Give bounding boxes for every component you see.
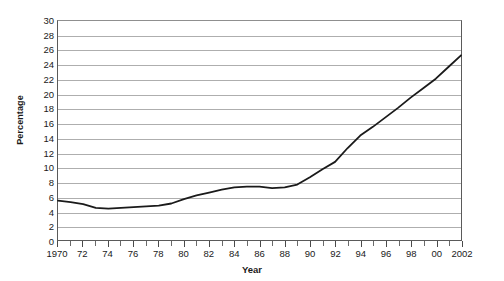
y-tick-label: 18	[43, 103, 54, 114]
x-tick-mark	[424, 241, 425, 246]
x-axis-title: Year	[0, 264, 504, 275]
y-tick-label: 22	[43, 73, 54, 84]
x-tick-mark	[297, 241, 298, 246]
x-tick-mark	[437, 241, 438, 247]
x-tick-mark	[82, 241, 83, 247]
x-tick-mark	[310, 241, 311, 247]
y-tick-label: 20	[43, 88, 54, 99]
x-tick-label: 00	[431, 248, 442, 259]
line-chart: Percentage 302826242220181614121086420 1…	[0, 0, 504, 281]
x-tick-mark	[209, 241, 210, 247]
series-polyline	[58, 55, 461, 208]
x-tick-mark	[108, 241, 109, 247]
x-tick-mark	[95, 241, 96, 246]
x-tick-mark	[70, 241, 71, 246]
x-tick-mark	[411, 241, 412, 247]
x-tick-mark	[158, 241, 159, 247]
x-tick-label: 80	[178, 248, 189, 259]
x-tick-label: 98	[406, 248, 417, 259]
x-tick-label: 76	[128, 248, 139, 259]
x-tick-label: 84	[229, 248, 240, 259]
x-tick-mark	[272, 241, 273, 246]
x-tick-mark	[260, 241, 261, 247]
x-tick-label: 94	[355, 248, 366, 259]
x-tick-label: 1970	[46, 248, 67, 259]
x-tick-label: 72	[77, 248, 88, 259]
x-axis-tick-labels: 19707274767880828486889092949698002002	[57, 248, 462, 264]
x-tick-mark	[449, 241, 450, 246]
y-tick-label: 28	[43, 29, 54, 40]
x-tick-mark	[399, 241, 400, 246]
x-tick-label: 90	[305, 248, 316, 259]
y-tick-label: 16	[43, 118, 54, 129]
x-tick-mark	[196, 241, 197, 246]
x-tick-mark	[133, 241, 134, 247]
x-tick-mark	[462, 241, 463, 247]
x-tick-mark	[323, 241, 324, 246]
x-tick-label: 2002	[451, 248, 472, 259]
y-tick-label: 30	[43, 15, 54, 26]
plot-area	[57, 20, 462, 241]
y-axis-title-text: Percentage	[15, 95, 25, 145]
y-tick-label: 2	[49, 221, 54, 232]
x-tick-mark	[361, 241, 362, 247]
x-tick-mark	[222, 241, 223, 246]
x-tick-label: 82	[204, 248, 215, 259]
y-tick-label: 0	[49, 236, 54, 247]
x-tick-label: 78	[153, 248, 164, 259]
y-tick-label: 10	[43, 162, 54, 173]
x-tick-mark	[120, 241, 121, 246]
y-axis-tick-labels: 302826242220181614121086420	[28, 15, 54, 241]
y-tick-label: 26	[43, 44, 54, 55]
x-axis-ticks	[57, 241, 462, 248]
x-tick-mark	[57, 241, 58, 247]
y-tick-label: 14	[43, 132, 54, 143]
x-tick-mark	[348, 241, 349, 246]
x-tick-mark	[184, 241, 185, 247]
x-tick-mark	[285, 241, 286, 247]
x-tick-label: 96	[381, 248, 392, 259]
x-tick-label: 92	[330, 248, 341, 259]
y-tick-label: 12	[43, 147, 54, 158]
x-tick-mark	[247, 241, 248, 246]
x-tick-mark	[373, 241, 374, 246]
x-tick-mark	[386, 241, 387, 247]
x-tick-label: 74	[102, 248, 113, 259]
y-tick-label: 24	[43, 59, 54, 70]
y-tick-label: 8	[49, 177, 54, 188]
x-tick-mark	[171, 241, 172, 246]
y-tick-label: 6	[49, 191, 54, 202]
y-tick-label: 4	[49, 206, 54, 217]
x-tick-mark	[335, 241, 336, 247]
x-tick-label: 88	[280, 248, 291, 259]
x-tick-mark	[234, 241, 235, 247]
x-tick-label: 86	[254, 248, 265, 259]
x-tick-mark	[146, 241, 147, 246]
data-series-line	[58, 21, 461, 240]
